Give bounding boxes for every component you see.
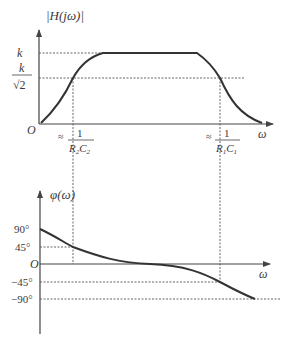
magnitude-plot: |H(jω)| k k √2 O ω ≈ 1 R2C2 ≈ 1 R1C1 [12, 8, 273, 283]
svg-text:R1C1: R1C1 [215, 142, 237, 156]
level-k-sqrt2-numerator: k [19, 61, 25, 75]
phase-y-label: φ(ω) [50, 187, 75, 202]
svg-text:1: 1 [77, 127, 83, 139]
magnitude-origin-label: O [27, 123, 36, 137]
magnitude-x-label: ω [258, 127, 266, 141]
svg-text:≈: ≈ [58, 131, 64, 142]
svg-text:R2C2: R2C2 [68, 142, 91, 156]
high-cutoff-label: ≈ 1 R1C1 [206, 127, 240, 156]
magnitude-y-label: |H(jω)| [46, 8, 84, 23]
tick-45: 45° [15, 241, 30, 253]
magnitude-curve [41, 53, 262, 123]
phase-x-label: ω [259, 267, 267, 281]
svg-text:≈: ≈ [206, 131, 212, 142]
tick-90: 90° [14, 223, 29, 235]
phase-origin-label: O [30, 257, 39, 271]
phase-plot: φ(ω) 90° 45° O −45° −90° ω [11, 187, 281, 334]
tick-minus90: −90° [11, 293, 33, 305]
low-cutoff-label: ≈ 1 R2C2 [58, 127, 94, 156]
bandpass-bode-diagram: |H(jω)| k k √2 O ω ≈ 1 R2C2 ≈ 1 R1C1 [0, 0, 291, 345]
svg-text:1: 1 [224, 127, 230, 139]
level-k-label: k [17, 46, 23, 60]
level-k-sqrt2-denominator: √2 [13, 78, 26, 92]
tick-minus45: −45° [11, 276, 33, 288]
